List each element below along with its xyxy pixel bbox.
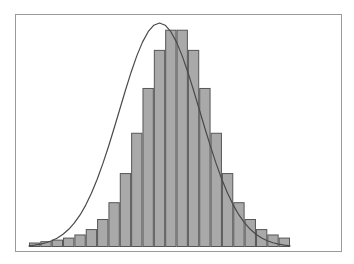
histogram-bar [75,235,85,247]
histogram-bar [143,88,153,246]
histogram-bar [268,235,278,247]
histogram-bar [120,174,130,247]
histogram-bar [200,88,210,246]
histogram-bar [177,30,187,246]
histogram-bar [64,238,74,246]
histogram-bar [154,50,164,246]
histogram-with-normal-curve [0,0,354,264]
histogram-bar [52,240,62,246]
figure-root [0,0,354,264]
histogram-bar [211,133,221,246]
histogram-bar [86,230,96,247]
histogram-bar [98,220,108,247]
histogram-bar [132,133,142,246]
histogram-bar [109,203,119,247]
histogram-bar [166,30,176,246]
